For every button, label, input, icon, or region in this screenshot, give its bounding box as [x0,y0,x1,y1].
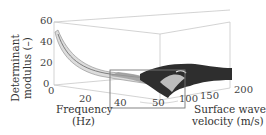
y-tick: 150 [200,91,219,101]
x-tick: 40 [114,98,127,108]
chart-root: 60 40 20 0 Determinant modulus (–) 0 20 … [0,0,266,135]
y-axis-title-line1: Surface wave [194,104,266,115]
x-axis-title-line2: (Hz) [72,116,95,127]
z-axis-title: Determinant modulus (–) [9,33,33,103]
x-axis-title-line1: Frequency [56,104,113,115]
z-tick: 20 [40,58,53,68]
axes-box [54,10,230,100]
z-tick: 60 [40,16,53,26]
y-tick: 50 [152,98,165,108]
z-tick: 40 [40,37,53,47]
y-tick: 200 [234,85,253,95]
x-tick: 0 [48,86,54,96]
y-axis-title-line2: velocity (m/s) [192,116,264,127]
